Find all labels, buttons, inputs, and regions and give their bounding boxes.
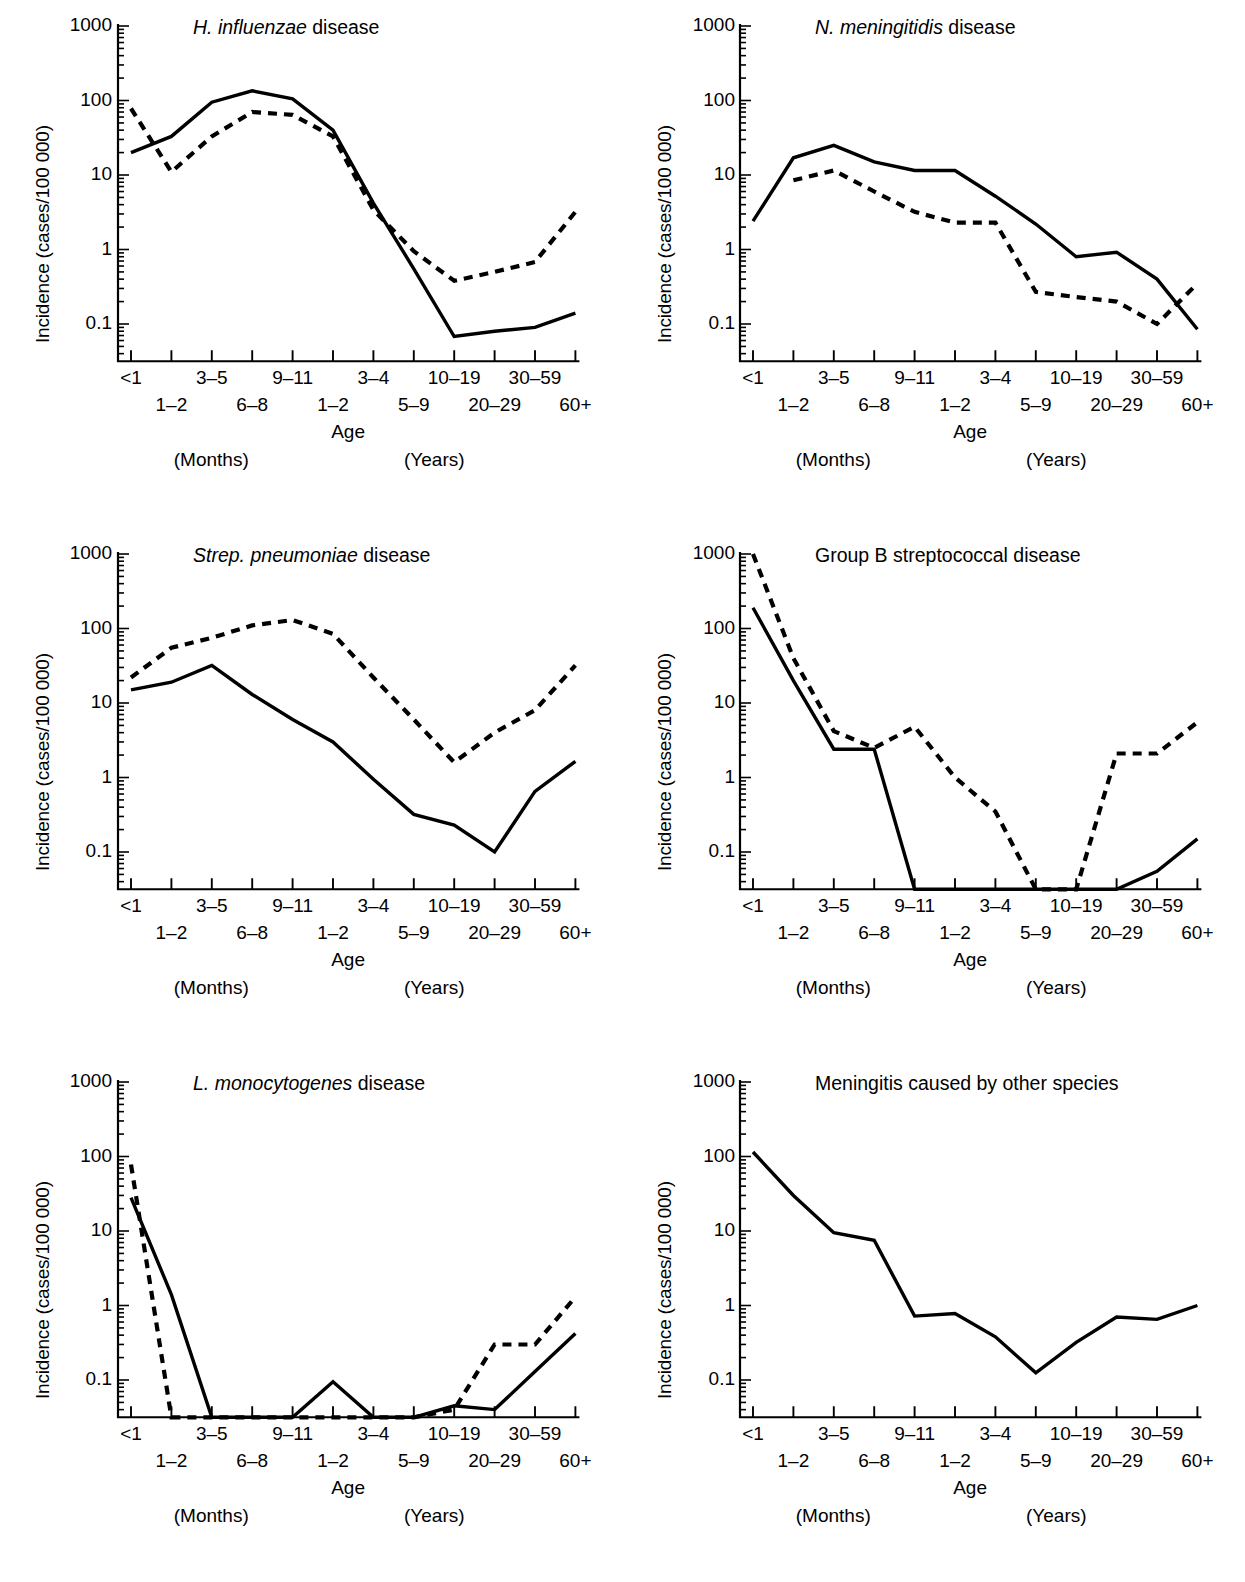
x-tick-label-top: 9–11 — [253, 1423, 333, 1445]
x-tick-label-bottom: 20–29 — [1077, 922, 1157, 944]
months-note: (Months) — [174, 977, 249, 999]
x-tick-label-bottom: 1–2 — [753, 1450, 833, 1472]
chart-svg — [622, 0, 1244, 528]
y-axis-ticks — [740, 26, 751, 354]
chart-panel-4: 10001001010.1Incidence (cases/100 000)L.… — [0, 1056, 622, 1582]
x-tick-label-top: 3–5 — [794, 895, 874, 917]
chart-svg — [622, 1056, 1244, 1582]
y-tick-label: 10 — [91, 163, 112, 185]
y-tick-label: 0.1 — [86, 312, 112, 334]
x-tick-label-bottom: 1–2 — [293, 1450, 373, 1472]
x-tick-label-bottom: 5–9 — [374, 1450, 454, 1472]
x-tick-label-top: <1 — [713, 367, 793, 389]
series-line-dashed — [793, 171, 1197, 325]
y-tick-label: 1000 — [70, 1070, 112, 1092]
x-tick-label-top: 9–11 — [253, 367, 333, 389]
panel-title: N. meningitidis disease — [815, 16, 1016, 39]
chart-panel-3: 10001001010.1Incidence (cases/100 000)Gr… — [622, 528, 1245, 1056]
y-tick-label: 10 — [714, 691, 735, 713]
figure-panel-grid: 10001001010.1Incidence (cases/100 000)H.… — [0, 0, 1245, 1582]
series-line-solid — [753, 608, 1197, 890]
x-axis-label: Age — [331, 949, 365, 971]
x-tick-label-bottom: 1–2 — [293, 394, 373, 416]
chart-panel-5: 10001001010.1Incidence (cases/100 000)Me… — [622, 1056, 1245, 1582]
x-tick-label-top: 9–11 — [875, 367, 955, 389]
x-tick-label-bottom: 20–29 — [455, 394, 535, 416]
x-tick-label-top: 3–4 — [955, 1423, 1035, 1445]
x-tick-label-bottom: 20–29 — [455, 922, 535, 944]
x-tick-label-bottom: 60+ — [1157, 922, 1237, 944]
years-note: (Years) — [1026, 977, 1087, 999]
y-axis-ticks — [118, 1082, 129, 1410]
y-axis-label: Incidence (cases/100 000) — [32, 1181, 54, 1399]
y-tick-label: 100 — [80, 617, 112, 639]
title-italic: H. influenzae — [193, 16, 307, 38]
x-tick-label-top: 30–59 — [1117, 367, 1197, 389]
chart-svg — [622, 528, 1244, 1056]
y-axis-ticks — [740, 1082, 751, 1410]
x-axis-ticks — [131, 878, 575, 889]
x-tick-label-top: 9–11 — [875, 895, 955, 917]
y-tick-label: 10 — [714, 163, 735, 185]
y-tick-label: 100 — [703, 617, 735, 639]
panel-title: H. influenzae disease — [193, 16, 379, 39]
y-axis-ticks — [740, 554, 751, 882]
x-tick-label-top: 3–5 — [172, 1423, 252, 1445]
x-tick-label-bottom: 5–9 — [374, 394, 454, 416]
x-tick-label-bottom: 1–2 — [753, 394, 833, 416]
x-tick-label-top: <1 — [91, 367, 171, 389]
x-tick-label-top: <1 — [713, 895, 793, 917]
y-tick-label: 1000 — [693, 14, 735, 36]
x-tick-label-top: 10–19 — [1036, 1423, 1116, 1445]
y-axis-label: Incidence (cases/100 000) — [32, 653, 54, 871]
x-tick-label-bottom: 20–29 — [1077, 1450, 1157, 1472]
axis-lines — [118, 552, 579, 889]
panel-title: Meningitis caused by other species — [815, 1072, 1119, 1095]
panel-title: Group B streptococcal disease — [815, 544, 1081, 567]
title-roman: disease — [307, 16, 380, 38]
y-axis-ticks — [118, 26, 129, 354]
x-tick-label-top: 9–11 — [253, 895, 333, 917]
x-tick-label-bottom: 5–9 — [374, 922, 454, 944]
y-tick-label: 10 — [714, 1219, 735, 1241]
x-tick-label-top: 30–59 — [495, 1423, 575, 1445]
x-tick-label-bottom: 20–29 — [455, 1450, 535, 1472]
y-tick-label: 0.1 — [709, 312, 735, 334]
x-tick-label-bottom: 60+ — [535, 394, 615, 416]
x-tick-label-bottom: 6–8 — [834, 394, 914, 416]
x-tick-label-bottom: 1–2 — [915, 394, 995, 416]
months-note: (Months) — [174, 1505, 249, 1527]
months-note: (Months) — [796, 977, 871, 999]
x-tick-label-bottom: 1–2 — [915, 1450, 995, 1472]
years-note: (Years) — [1026, 1505, 1087, 1527]
title-italic: Strep. pneumoniae — [193, 544, 358, 566]
x-tick-label-bottom: 5–9 — [996, 1450, 1076, 1472]
axis-lines — [740, 24, 1201, 361]
years-note: (Years) — [1026, 449, 1087, 471]
x-tick-label-top: 3–4 — [955, 367, 1035, 389]
axis-lines — [118, 24, 579, 361]
y-tick-label: 10 — [91, 1219, 112, 1241]
years-note: (Years) — [404, 977, 465, 999]
panel-title: Strep. pneumoniae disease — [193, 544, 430, 567]
y-tick-label: 1 — [101, 1294, 112, 1316]
y-tick-label: 100 — [703, 1145, 735, 1167]
title-roman: disease — [358, 544, 431, 566]
x-tick-label-bottom: 1–2 — [131, 1450, 211, 1472]
x-tick-label-top: 3–4 — [333, 367, 413, 389]
x-axis-ticks — [131, 350, 575, 361]
x-tick-label-top: <1 — [91, 1423, 171, 1445]
series-line-dashed — [131, 109, 575, 281]
y-tick-label: 100 — [80, 89, 112, 111]
x-tick-label-bottom: 6–8 — [212, 394, 292, 416]
x-tick-label-top: 30–59 — [1117, 895, 1197, 917]
series-line-solid — [131, 665, 575, 852]
x-axis-ticks — [753, 350, 1197, 361]
x-tick-label-top: 10–19 — [1036, 895, 1116, 917]
months-note: (Months) — [796, 449, 871, 471]
title-roman: disease — [943, 16, 1016, 38]
series-line-solid — [753, 1152, 1197, 1373]
y-tick-label: 1000 — [693, 542, 735, 564]
title-italic: L. monocytogenes — [193, 1072, 352, 1094]
x-axis-label: Age — [953, 949, 987, 971]
